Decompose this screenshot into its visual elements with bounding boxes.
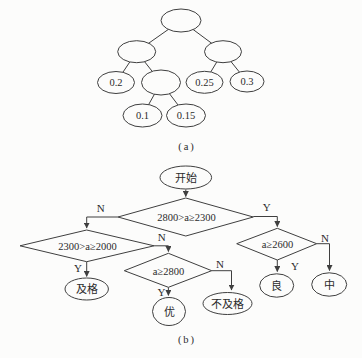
terminal-fail-label: 不及格: [211, 297, 244, 310]
branch-d1-no: N: [97, 202, 105, 214]
scanned-figure-page: 0.2 0.25 0.3 0.1 0.15 (a) 开始 2800>a≥2300: [0, 0, 362, 358]
branch-d4-no: N: [321, 232, 329, 244]
tree-node-internal-mid: [142, 70, 181, 95]
tree-panel-a: 0.2 0.25 0.3 0.1 0.15 (a): [98, 9, 265, 153]
connector-d1-no-d2: [87, 217, 118, 228]
decision-d4-label: a≥2600: [262, 239, 293, 250]
branch-d2-no: N: [158, 231, 166, 243]
decision-d3-label: a≥2800: [153, 266, 184, 277]
branch-d4-yes: Y: [291, 260, 299, 272]
connector-d2-no-d3: [154, 246, 168, 252]
tree-node-root: [161, 9, 201, 32]
connector-d4-no-medium: [317, 244, 330, 271]
connector-d3-no-fail: [212, 271, 232, 290]
decision-d1-label: 2800>a≥2300: [157, 212, 215, 223]
connector-d1-yes-d4: [253, 217, 277, 227]
branch-d1-yes: Y: [263, 201, 271, 213]
tree-label-025: 0.25: [195, 77, 213, 88]
tree-label-01: 0.1: [136, 110, 149, 121]
caption-b: (b): [178, 334, 196, 346]
tree-node-left-child: [118, 41, 156, 63]
tree-label-03: 0.3: [240, 76, 253, 87]
flowchart-panel-b: 开始 2800>a≥2300 2300>a≥2000 a≥2800 a≥2600…: [20, 166, 347, 346]
decision-d2-label: 2300>a≥2000: [58, 241, 116, 252]
branch-d2-yes: Y: [74, 262, 82, 274]
branch-d3-no: N: [216, 258, 224, 270]
terminal-excellent-label: 优: [164, 306, 175, 318]
terminal-medium-label: 中: [324, 279, 335, 291]
branch-d3-yes: Y: [158, 286, 166, 298]
tree-node-right-child: [205, 41, 242, 63]
tree-label-015: 0.15: [177, 110, 195, 121]
start-label: 开始: [175, 171, 197, 184]
figure-svg: 0.2 0.25 0.3 0.1 0.15 (a) 开始 2800>a≥2300: [0, 0, 362, 358]
tree-label-02: 0.2: [109, 77, 122, 88]
caption-a: (a): [178, 141, 196, 153]
terminal-good-label: 良: [271, 279, 282, 292]
terminal-pass-label: 及格: [76, 282, 98, 295]
